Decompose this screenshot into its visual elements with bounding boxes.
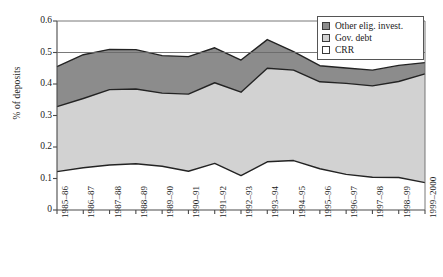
legend-item-2: CRR bbox=[322, 44, 418, 55]
y-tick-label-6: 0.6 bbox=[26, 16, 52, 26]
y-tick-label-4: 0.4 bbox=[26, 79, 52, 89]
legend-swatch-icon bbox=[322, 22, 330, 30]
y-tick-label-0: 0 bbox=[26, 205, 52, 215]
legend-label: Gov. debt bbox=[335, 33, 372, 43]
y-axis-title: % of deposits bbox=[12, 48, 22, 138]
x-tick-label-0: 1985–86 bbox=[61, 186, 70, 218]
x-tick-label-4: 1989–90 bbox=[166, 186, 175, 218]
legend-label: CRR bbox=[335, 45, 354, 55]
x-tick-label-7: 1992–93 bbox=[245, 186, 254, 218]
x-tick-label-10: 1995–96 bbox=[324, 186, 333, 218]
x-tick-label-11: 1996–97 bbox=[350, 186, 359, 218]
x-tick-label-2: 1987–88 bbox=[114, 186, 123, 218]
x-tick-label-13: 1998–99 bbox=[403, 186, 412, 218]
x-tick-label-3: 1988–89 bbox=[140, 186, 149, 218]
y-tick-label-1: 0.1 bbox=[26, 174, 52, 184]
legend-swatch-icon bbox=[322, 34, 330, 42]
chart-legend: Other elig. invest.Gov. debtCRR bbox=[317, 16, 424, 60]
legend-item-0: Other elig. invest. bbox=[322, 20, 418, 31]
area-chart: % of deposits 00.10.20.30.40.50.6 1985–8… bbox=[0, 0, 443, 277]
legend-item-1: Gov. debt bbox=[322, 32, 418, 43]
x-tick-label-5: 1990–91 bbox=[192, 186, 201, 218]
x-tick-label-14: 1999–2000 bbox=[429, 177, 438, 218]
y-tick-label-2: 0.2 bbox=[26, 142, 52, 152]
y-tick-label-3: 0.3 bbox=[26, 111, 52, 121]
legend-label: Other elig. invest. bbox=[335, 21, 403, 31]
y-axis-tick-labels: 00.10.20.30.40.50.6 bbox=[22, 0, 52, 277]
y-tick-label-5: 0.5 bbox=[26, 48, 52, 58]
x-tick-label-12: 1997–98 bbox=[376, 186, 385, 218]
x-tick-label-6: 1991–92 bbox=[219, 186, 228, 218]
x-tick-label-9: 1994–95 bbox=[298, 186, 307, 218]
legend-swatch-icon bbox=[322, 46, 330, 54]
stacked-areas bbox=[57, 40, 425, 210]
x-tick-label-8: 1993–94 bbox=[271, 186, 280, 218]
x-tick-label-1: 1986–87 bbox=[87, 186, 96, 218]
